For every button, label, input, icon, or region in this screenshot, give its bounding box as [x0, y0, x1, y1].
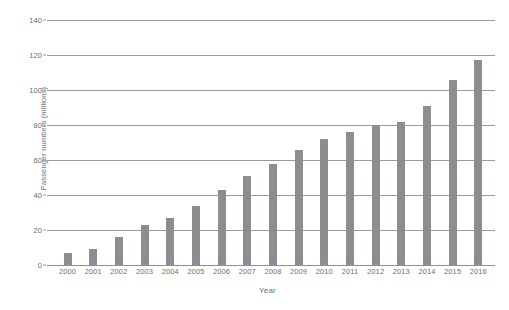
bar — [166, 218, 174, 265]
x-axis-tick-label: 2009 — [290, 267, 307, 276]
x-axis-tick-mark — [478, 263, 479, 266]
y-axis-tick-mark — [43, 160, 46, 161]
x-axis-tick-label: 2006 — [213, 267, 230, 276]
x-axis-tick-label: 2010 — [316, 267, 333, 276]
x-axis-tick-label: 2000 — [59, 267, 76, 276]
y-axis-tick-label: 80 — [33, 121, 42, 130]
x-axis-tick-labels: 2000200120022003200420052006200720082009… — [47, 267, 495, 283]
y-axis-tick-mark — [43, 90, 46, 91]
y-axis-tick-mark — [43, 20, 46, 21]
y-axis-tick-label: 60 — [33, 156, 42, 165]
bar — [269, 164, 277, 266]
x-axis-tick-mark — [119, 263, 120, 266]
x-axis-tick-mark — [145, 263, 146, 266]
x-axis-tick-label: 2002 — [110, 267, 127, 276]
x-axis-tick-label: 2005 — [187, 267, 204, 276]
x-axis-tick-label: 2008 — [264, 267, 281, 276]
x-axis-tick-label: 2001 — [85, 267, 102, 276]
bar — [346, 132, 354, 265]
bar — [218, 190, 226, 265]
x-axis-tick-mark — [299, 263, 300, 266]
x-axis-tick-label: 2013 — [393, 267, 410, 276]
x-axis-tick-mark — [170, 263, 171, 266]
y-axis-tick-mark — [43, 195, 46, 196]
y-axis-tick-label: 40 — [33, 191, 42, 200]
y-axis-tick-mark — [43, 125, 46, 126]
y-axis-tick-mark — [43, 265, 46, 266]
bar — [115, 237, 123, 265]
x-axis-tick-label: 2004 — [162, 267, 179, 276]
y-axis-tick-mark — [43, 230, 46, 231]
y-axis-tick-label: 20 — [33, 226, 42, 235]
x-axis-tick-label: 2011 — [342, 267, 359, 276]
x-axis-tick-mark — [93, 263, 94, 266]
x-axis-tick-mark — [196, 263, 197, 266]
x-axis-tick-label: 2016 — [470, 267, 487, 276]
bar — [372, 125, 380, 265]
bar — [192, 206, 200, 266]
bar — [423, 106, 431, 265]
bar — [141, 225, 149, 265]
x-axis-tick-label: 2014 — [418, 267, 435, 276]
y-axis-tick-label: 120 — [29, 51, 42, 60]
y-axis-tick-label: 100 — [29, 86, 42, 95]
x-axis-tick-mark — [222, 263, 223, 266]
y-axis-tick-label: 140 — [29, 16, 42, 25]
x-axis-tick-label: 2003 — [136, 267, 153, 276]
x-axis-tick-mark — [350, 263, 351, 266]
x-axis-tick-label: 2012 — [367, 267, 384, 276]
bar — [449, 80, 457, 266]
x-axis-tick-mark — [68, 263, 69, 266]
x-axis-tick-mark — [273, 263, 274, 266]
x-axis-tick-label: 2007 — [239, 267, 256, 276]
bar — [243, 176, 251, 265]
x-axis-tick-mark — [401, 263, 402, 266]
bar — [474, 60, 482, 265]
x-axis-tick-mark — [247, 263, 248, 266]
bar-chart: Passenger numbers (millions) 02040608010… — [0, 0, 509, 310]
x-axis-tick-mark — [324, 263, 325, 266]
x-axis-tick-mark — [427, 263, 428, 266]
bar — [320, 139, 328, 265]
y-axis-tick-mark — [43, 55, 46, 56]
bar — [397, 122, 405, 266]
x-axis-tick-mark — [453, 263, 454, 266]
y-axis-tick-label: 0 — [38, 261, 42, 270]
x-axis-tick-mark — [376, 263, 377, 266]
plot-area: 020406080100120140 — [47, 20, 495, 265]
bars-group — [47, 20, 495, 265]
bar — [295, 150, 303, 266]
x-axis-tick-label: 2015 — [444, 267, 461, 276]
x-axis-title: Year — [40, 286, 495, 295]
